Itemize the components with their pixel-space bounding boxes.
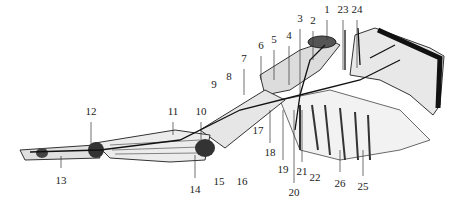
label-19: 19	[278, 164, 289, 175]
label-4: 4	[286, 30, 292, 41]
label-23: 23	[338, 4, 349, 15]
label-10: 10	[196, 106, 207, 117]
label-16: 16	[237, 176, 248, 187]
label-9: 9	[211, 79, 217, 90]
label-8: 8	[226, 71, 232, 82]
label-14: 14	[190, 184, 201, 195]
label-1: 1	[324, 4, 330, 15]
label-21: 21	[297, 166, 308, 177]
label-22: 22	[310, 172, 321, 183]
label-3: 3	[297, 13, 303, 24]
label-2: 2	[310, 15, 316, 26]
label-26: 26	[335, 178, 346, 189]
label-7: 7	[241, 53, 247, 64]
label-12: 12	[86, 106, 97, 117]
label-24: 24	[352, 4, 363, 15]
label-11: 11	[168, 106, 179, 117]
limb-illustration	[0, 0, 459, 213]
label-17: 17	[253, 125, 264, 136]
label-25: 25	[358, 181, 369, 192]
label-20: 20	[289, 187, 300, 198]
anatomy-diagram: 1 2 3 4 5 6 7 8 9 10 11 12 13 14 15 16 1…	[0, 0, 459, 213]
label-18: 18	[265, 147, 276, 158]
label-6: 6	[258, 40, 264, 51]
label-5: 5	[271, 34, 277, 45]
label-13: 13	[56, 175, 67, 186]
label-15: 15	[214, 176, 225, 187]
